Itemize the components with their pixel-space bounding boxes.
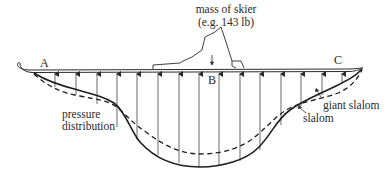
point-c-label: C xyxy=(334,53,342,67)
pressure-distribution-label-line2: distribution xyxy=(62,120,115,132)
ski-pressure-diagram: mass of skier (e.g. 143 lb) A B C xyxy=(0,0,387,184)
skier-mass-label-line2: (e.g. 143 lb) xyxy=(198,16,254,29)
slalom-pointer-icon xyxy=(298,106,306,114)
slalom-label: slalom xyxy=(303,112,334,124)
point-b-label: B xyxy=(208,73,216,87)
boot-silhouette-icon xyxy=(153,27,244,69)
mass-down-arrow-icon xyxy=(211,55,214,65)
point-a-label: A xyxy=(40,56,49,70)
skier-mass-label-line1: mass of skier xyxy=(196,3,257,15)
giant-slalom-label: giant slalom xyxy=(323,99,380,112)
ski xyxy=(18,63,364,73)
